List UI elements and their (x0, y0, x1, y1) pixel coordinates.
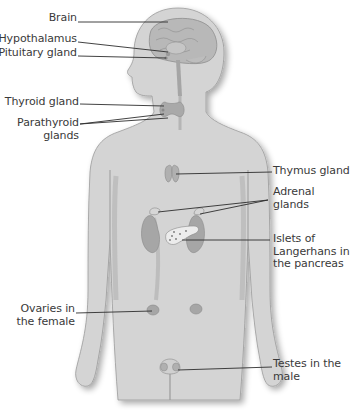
label-pituitary-gland: Pituitary gland (0, 47, 77, 60)
label-thyroid-gland: Thyroid gland (5, 96, 79, 109)
label-hypothalamus: Hypothalamus (0, 33, 77, 46)
ovary-left (147, 305, 159, 315)
ovary-right (190, 304, 202, 314)
testes-organ (160, 359, 180, 374)
label-brain: Brain (49, 12, 77, 25)
label-thymus-gland: Thymus gland (273, 165, 350, 178)
label-adrenal-glands: Adrenal glands (273, 186, 314, 211)
label-islets-of-langerhans: Islets of Langerhans in the pancreas (273, 233, 350, 271)
leader-thyroid (80, 104, 164, 106)
endocrine-diagram: Brain Hypothalamus Pituitary gland Thyro… (0, 0, 355, 419)
label-testes: Testes in the male (273, 358, 341, 383)
label-ovaries: Ovaries in the female (17, 303, 75, 328)
label-parathyroid-glands: Parathyroid glands (17, 117, 79, 142)
